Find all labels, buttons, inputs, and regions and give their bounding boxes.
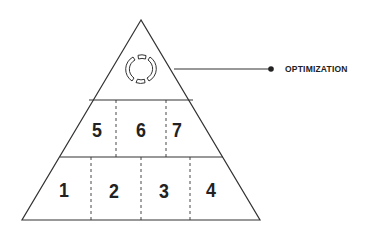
segment-1: 1 [59,179,69,200]
refresh-cycle-icon [126,55,157,84]
segment-7: 7 [172,119,182,140]
pyramid-diagram [0,0,369,234]
segment-3: 3 [159,180,169,201]
segment-6: 6 [136,119,146,140]
segment-4: 4 [206,179,216,200]
segment-5: 5 [92,119,102,140]
callout-dot [268,66,274,72]
callout-label-optimization: OPTIMIZATION [285,64,348,74]
segment-2: 2 [109,180,119,201]
